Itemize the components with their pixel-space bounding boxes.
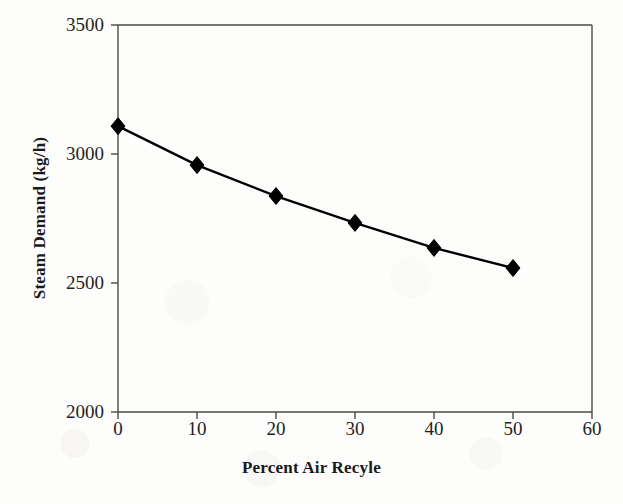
data-series-line (118, 126, 513, 268)
chart-figure: 3500 3000 2500 2000 0 10 20 30 40 50 60 … (0, 0, 623, 504)
plot-area (0, 0, 623, 504)
data-point-markers (111, 118, 520, 277)
